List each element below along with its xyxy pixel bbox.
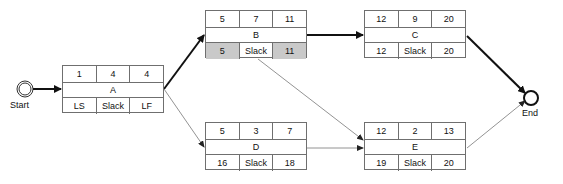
node-bottom-row: 12 Slack 20 — [365, 43, 465, 59]
late-start: 5 — [206, 43, 239, 59]
network-diagram: Start End 1 4 4 A LS Slack LF 5 7 11 B 5… — [0, 0, 563, 184]
node-top-row: 12 9 20 — [365, 11, 465, 27]
duration: 9 — [398, 11, 432, 27]
node-top-row: 5 3 7 — [206, 123, 306, 139]
late-finish: 18 — [272, 155, 306, 171]
node-bottom-row: 5 Slack 11 — [206, 43, 306, 59]
start-node-icon — [17, 81, 33, 97]
node-top-row: 1 4 4 — [63, 66, 163, 82]
activity-node-d: 5 3 7 D 16 Slack 18 — [205, 122, 307, 170]
activity-name: C — [365, 28, 465, 42]
node-top-row: 12 2 13 — [365, 123, 465, 139]
edge-a-b — [164, 35, 204, 89]
early-finish: 7 — [272, 123, 306, 139]
late-finish: LF — [129, 98, 163, 114]
early-finish: 20 — [431, 11, 465, 27]
node-name-row: E — [365, 139, 465, 155]
end-node-icon — [524, 91, 538, 105]
node-bottom-row: 19 Slack 20 — [365, 155, 465, 171]
node-name-row: D — [206, 139, 306, 155]
node-name-row: B — [206, 27, 306, 43]
late-finish: 20 — [431, 155, 465, 171]
duration: 3 — [239, 123, 273, 139]
activity-node-a: 1 4 4 A LS Slack LF — [62, 65, 164, 113]
node-top-row: 5 7 11 — [206, 11, 306, 27]
late-finish: 11 — [272, 43, 306, 59]
slack: Slack — [398, 155, 432, 171]
early-start: 12 — [365, 123, 398, 139]
activity-node-b: 5 7 11 B 5 Slack 11 — [205, 10, 307, 58]
start-label: Start — [10, 100, 29, 110]
early-start: 12 — [365, 11, 398, 27]
node-bottom-row: LS Slack LF — [63, 98, 163, 114]
node-name-row: C — [365, 27, 465, 43]
duration: 2 — [398, 123, 432, 139]
early-start: 1 — [63, 66, 96, 82]
activity-node-c: 12 9 20 C 12 Slack 20 — [364, 10, 466, 58]
early-finish: 11 — [272, 11, 306, 27]
early-start: 5 — [206, 11, 239, 27]
early-finish: 13 — [431, 123, 465, 139]
early-start: 5 — [206, 123, 239, 139]
slack: Slack — [398, 43, 432, 59]
edge-c-end — [467, 36, 525, 93]
late-start: LS — [63, 98, 96, 114]
late-start: 16 — [206, 155, 239, 171]
node-bottom-row: 16 Slack 18 — [206, 155, 306, 171]
node-name-row: A — [63, 82, 163, 98]
late-finish: 20 — [431, 43, 465, 59]
slack: Slack — [239, 43, 273, 59]
late-start: 12 — [365, 43, 398, 59]
activity-name: B — [206, 28, 306, 42]
activity-name: E — [365, 140, 465, 154]
edge-a-d — [164, 89, 204, 147]
early-finish: 4 — [129, 66, 163, 82]
late-start: 19 — [365, 155, 398, 171]
duration: 7 — [239, 11, 273, 27]
end-label: End — [522, 108, 538, 118]
slack: Slack — [96, 98, 130, 114]
slack: Slack — [239, 155, 273, 171]
activity-name: D — [206, 140, 306, 154]
activity-node-e: 12 2 13 E 19 Slack 20 — [364, 122, 466, 170]
edge-e-end — [467, 101, 525, 148]
activity-name: A — [63, 83, 163, 97]
duration: 4 — [96, 66, 130, 82]
